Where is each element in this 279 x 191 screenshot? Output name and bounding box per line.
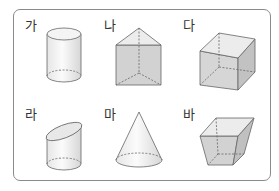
cube-shape	[200, 33, 255, 90]
cone-shape	[116, 112, 162, 167]
cut-cylinder-shape	[44, 119, 84, 170]
cylinder-shape	[47, 28, 81, 82]
frustum-shape	[200, 118, 254, 165]
triangular-prism-shape	[116, 28, 161, 85]
solids-drawing	[0, 0, 279, 191]
